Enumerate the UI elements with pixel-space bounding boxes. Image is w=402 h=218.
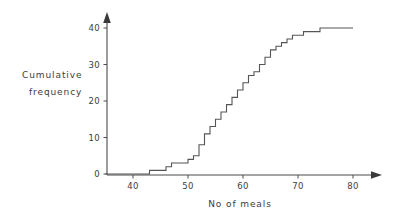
- x-tick-label: 60: [237, 181, 249, 191]
- y-tick-label: 30: [88, 60, 100, 70]
- y-axis-title-line2: frequency: [29, 87, 82, 97]
- chart-canvas: 010203040 4050607080 Cumulative frequenc…: [0, 0, 402, 218]
- y-axis-title-line1: Cumulative: [22, 70, 82, 80]
- y-tick-label: 40: [88, 23, 100, 33]
- cumulative-frequency-chart: 010203040 4050607080 Cumulative frequenc…: [0, 0, 402, 218]
- x-tick-group: 4050607080: [127, 175, 359, 191]
- y-tick-group: 010203040: [88, 23, 107, 179]
- x-tick-label: 40: [127, 181, 139, 191]
- y-tick-label: 10: [88, 133, 100, 143]
- x-axis-group: [107, 171, 382, 179]
- y-tick-label: 20: [88, 96, 100, 106]
- y-tick-label: 0: [94, 169, 100, 179]
- x-axis-arrow-icon: [371, 171, 382, 179]
- x-tick-label: 70: [292, 181, 304, 191]
- cumulative-frequency-curve: [106, 28, 354, 174]
- y-axis-group: [103, 12, 111, 175]
- x-axis-title: No of meals: [208, 199, 272, 209]
- y-axis-arrow-icon: [103, 12, 111, 23]
- x-tick-label: 80: [347, 181, 359, 191]
- x-tick-label: 50: [182, 181, 194, 191]
